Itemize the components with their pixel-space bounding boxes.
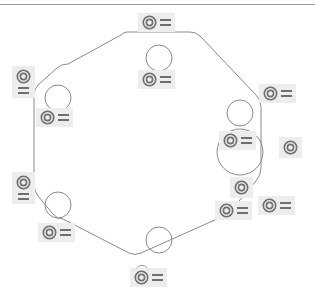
equals-sign-icon	[152, 273, 163, 282]
arc-overlay-icon	[135, 265, 148, 271]
equals-sign-icon	[237, 206, 248, 215]
constraint-icon-wrap	[223, 133, 238, 148]
hole-top-center[interactable]	[146, 45, 172, 71]
equal-constraint-icon	[262, 198, 277, 213]
equal-constraint-icon	[142, 15, 157, 30]
hole-right-upper[interactable]	[227, 100, 253, 126]
equals-sign-icon	[18, 86, 29, 95]
equals-sign-icon	[160, 18, 171, 27]
hole-left-lower[interactable]	[45, 192, 71, 218]
constraint-icon-wrap	[42, 225, 57, 240]
equal-constraint-icon	[42, 225, 57, 240]
equal-constraint-right-outer[interactable]	[279, 137, 302, 158]
equals-sign-icon	[241, 136, 252, 145]
equal-constraint-icon	[263, 86, 278, 101]
constraint-icon-wrap	[142, 15, 157, 30]
constraint-icon-wrap	[262, 198, 277, 213]
equals-sign-icon	[58, 113, 69, 122]
constraint-icon-wrap	[134, 270, 149, 285]
constraint-icon-wrap	[219, 203, 234, 218]
equal-constraint-icon	[16, 175, 31, 190]
equals-sign-icon	[280, 201, 291, 210]
equal-constraint-left-lower[interactable]	[38, 223, 75, 242]
constraint-icon-wrap	[40, 110, 55, 125]
equal-constraint-left-mid[interactable]	[12, 172, 35, 204]
equal-constraint-top[interactable]	[138, 13, 175, 32]
constraint-icon-wrap	[263, 86, 278, 101]
constraint-icon-wrap	[234, 180, 249, 195]
equal-constraint-left-upper[interactable]	[36, 108, 73, 127]
equals-sign-icon	[160, 75, 171, 84]
equal-constraint-bottom[interactable]	[130, 268, 167, 287]
equal-constraint-icon	[223, 133, 238, 148]
equal-constraint-icon	[283, 140, 298, 155]
equal-constraint-icon	[234, 180, 249, 195]
equal-constraint-icon	[219, 203, 234, 218]
drawing-canvas	[0, 0, 315, 304]
equals-sign-icon	[18, 192, 29, 201]
equal-constraint-icon	[40, 110, 55, 125]
constraint-icon-wrap	[16, 69, 31, 84]
constraint-icon-wrap	[142, 72, 157, 87]
constraint-icon-wrap	[16, 175, 31, 190]
equal-constraint-top-inner[interactable]	[138, 70, 175, 89]
equal-constraint-left-outer[interactable]	[12, 66, 35, 98]
equal-constraint-icon	[142, 72, 157, 87]
equal-constraint-icon	[134, 270, 149, 285]
equal-constraint-bore-center[interactable]	[219, 131, 256, 150]
equal-constraint-right-lower[interactable]	[258, 196, 295, 215]
equal-constraint-icon	[16, 69, 31, 84]
hole-bottom-center[interactable]	[146, 227, 172, 253]
equal-constraint-bottom-right[interactable]	[215, 201, 252, 220]
constraint-icon-wrap	[283, 140, 298, 155]
equals-sign-icon	[281, 89, 292, 98]
equal-constraint-right-arc[interactable]	[230, 177, 253, 198]
equals-sign-icon	[60, 228, 71, 237]
equal-constraint-right-upper[interactable]	[259, 84, 296, 103]
technical-drawing	[0, 0, 315, 304]
